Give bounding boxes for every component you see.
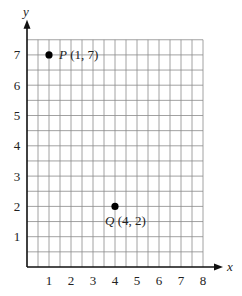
point-label: P (1, 7) [58, 47, 98, 62]
point-label: Q (4, 2) [105, 213, 146, 228]
x-tick-labels: 12345678 [46, 273, 207, 288]
y-tick-label: 4 [14, 138, 21, 153]
y-tick-label: 2 [14, 199, 21, 214]
y-tick-label: 5 [14, 108, 21, 123]
y-tick-label: 6 [14, 78, 21, 93]
x-tick-label: 4 [112, 273, 119, 288]
y-axis-arrow-icon [24, 20, 31, 29]
coordinate-plane: x y 12345678 1234567 P (1, 7)Q (4, 2) [0, 0, 242, 296]
axes: x y [21, 4, 233, 274]
x-tick-label: 5 [134, 273, 141, 288]
data-points: P (1, 7)Q (4, 2) [45, 47, 145, 228]
y-axis-label: y [21, 4, 29, 19]
x-tick-label: 3 [90, 273, 97, 288]
x-tick-label: 1 [46, 273, 53, 288]
x-tick-label: 6 [156, 273, 163, 288]
x-axis-arrow-icon [214, 264, 223, 271]
x-tick-label: 8 [200, 273, 207, 288]
y-tick-label: 3 [14, 169, 21, 184]
x-tick-label: 2 [68, 273, 75, 288]
x-axis-label: x [226, 259, 233, 274]
x-tick-label: 7 [178, 273, 185, 288]
y-tick-label: 1 [14, 229, 21, 244]
y-tick-label: 7 [14, 47, 21, 62]
grid-lines [27, 40, 203, 267]
y-tick-labels: 1234567 [14, 47, 21, 244]
point-marker-icon [111, 203, 118, 210]
point-marker-icon [45, 51, 52, 58]
